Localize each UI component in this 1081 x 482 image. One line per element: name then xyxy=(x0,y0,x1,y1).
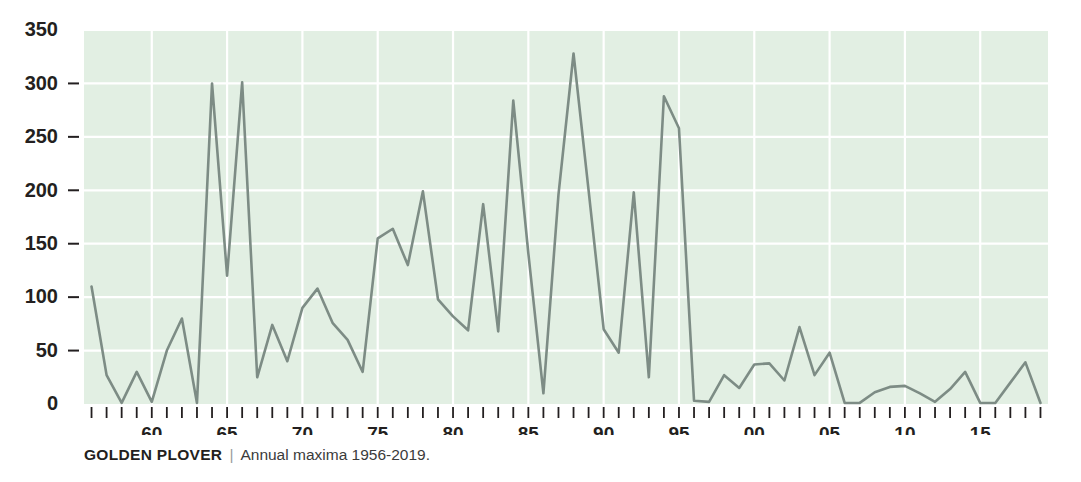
x-axis-tick-marks xyxy=(92,407,1041,418)
x-tick-label: 75 xyxy=(367,423,389,435)
chart-figure: 050100150200250300350 606570758085909500… xyxy=(0,0,1081,482)
plot-background xyxy=(84,30,1048,404)
y-tick-label: 250 xyxy=(25,125,58,147)
x-tick-label: 70 xyxy=(292,423,313,435)
y-axis-tick-labels: 050100150200250300350 xyxy=(25,18,58,414)
y-tick-label: 0 xyxy=(47,392,58,414)
x-tick-label: 65 xyxy=(217,423,239,435)
x-tick-label: 15 xyxy=(970,423,992,435)
caption-separator: | xyxy=(229,446,233,464)
y-axis-tick-marks xyxy=(68,83,79,350)
y-tick-label: 100 xyxy=(25,285,58,307)
y-tick-label: 350 xyxy=(25,18,58,40)
x-tick-label: 90 xyxy=(593,423,614,435)
y-tick-label: 200 xyxy=(25,179,58,201)
x-tick-label: 10 xyxy=(894,423,915,435)
chart-plot-area: 050100150200250300350 606570758085909500… xyxy=(0,0,1081,435)
x-tick-label: 95 xyxy=(668,423,690,435)
x-tick-label: 00 xyxy=(744,423,765,435)
y-tick-label: 300 xyxy=(25,72,58,94)
x-tick-label: 80 xyxy=(442,423,463,435)
x-tick-label: 85 xyxy=(518,423,540,435)
caption: GOLDEN PLOVER | Annual maxima 1956-2019. xyxy=(84,440,1044,470)
line-chart-svg: 050100150200250300350 606570758085909500… xyxy=(0,0,1081,435)
y-tick-label: 50 xyxy=(36,339,58,361)
caption-subtitle: Annual maxima 1956-2019. xyxy=(240,446,430,464)
caption-title: GOLDEN PLOVER xyxy=(84,446,222,464)
x-tick-label: 60 xyxy=(141,423,162,435)
x-tick-label: 05 xyxy=(819,423,841,435)
x-axis-tick-labels: 606570758085909500051015 xyxy=(141,423,991,435)
y-tick-label: 150 xyxy=(25,232,58,254)
